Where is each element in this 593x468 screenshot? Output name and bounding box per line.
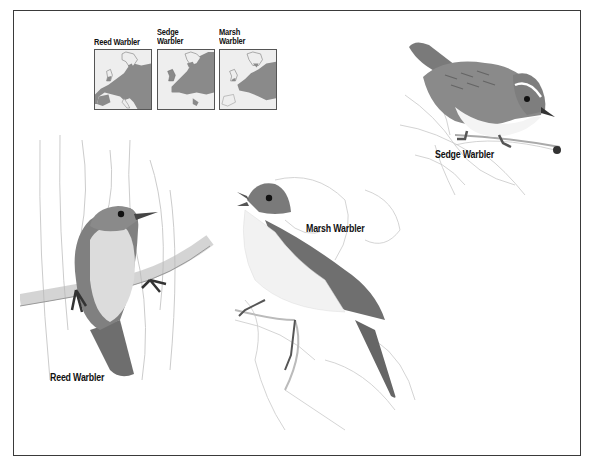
map-label-marsh-line2: Warbler bbox=[219, 37, 245, 46]
map-label-reed-warbler: Reed Warbler bbox=[94, 38, 140, 47]
reed-warbler-illustration bbox=[20, 130, 220, 390]
marsh-warbler-illustration bbox=[225, 160, 425, 440]
label-marsh-warbler: Marsh Warbler bbox=[306, 224, 365, 234]
range-map-marsh-warbler bbox=[219, 49, 277, 110]
range-map-sedge-warbler bbox=[157, 49, 215, 110]
label-sedge-warbler: Sedge Warbler bbox=[435, 150, 494, 160]
range-map-reed-warbler bbox=[94, 49, 152, 110]
europe-map-icon bbox=[95, 50, 151, 109]
map-label-sedge-line2: Warbler bbox=[157, 37, 183, 46]
europe-map-icon bbox=[158, 50, 214, 109]
europe-map-icon bbox=[220, 50, 276, 109]
label-reed-warbler: Reed Warbler bbox=[50, 373, 104, 383]
